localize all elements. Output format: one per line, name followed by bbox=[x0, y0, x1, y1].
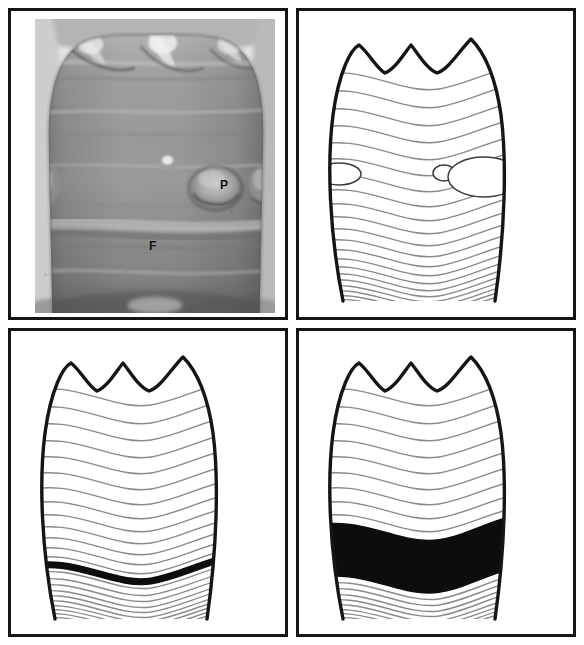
tooth-crown bbox=[35, 19, 275, 313]
photograph-stage: P F bbox=[35, 19, 275, 313]
panel-plane-form-schematic bbox=[296, 328, 576, 637]
panel-furrow-form-schematic bbox=[8, 328, 288, 637]
plane-form-perikymata-occlusal bbox=[309, 371, 569, 532]
pit-right-marginal bbox=[524, 163, 562, 191]
panel-photograph: P F bbox=[8, 8, 288, 320]
plane-form-diagram bbox=[299, 331, 573, 634]
photograph-small-pit bbox=[160, 155, 177, 171]
panel-photograph-inner: P F bbox=[11, 11, 285, 317]
furrow-form-diagram bbox=[11, 331, 285, 634]
photograph-image bbox=[35, 19, 275, 313]
plane-form-defect-band bbox=[305, 503, 573, 594]
panel-pit-form-schematic bbox=[296, 8, 576, 320]
photograph-padding: P F bbox=[11, 11, 285, 317]
photograph-pit-P bbox=[187, 165, 245, 212]
panel-pit-form-inner bbox=[299, 11, 573, 317]
furrow-form-perikymata bbox=[21, 371, 281, 634]
pit-form-diagram bbox=[299, 11, 573, 317]
pit-left-marginal bbox=[317, 163, 361, 185]
figure-root: P F bbox=[0, 0, 584, 645]
panel-plane-form-inner bbox=[299, 331, 573, 634]
pit-form-perikymata bbox=[309, 55, 569, 317]
pit-large bbox=[448, 157, 520, 197]
panel-furrow-form-inner bbox=[11, 331, 285, 634]
